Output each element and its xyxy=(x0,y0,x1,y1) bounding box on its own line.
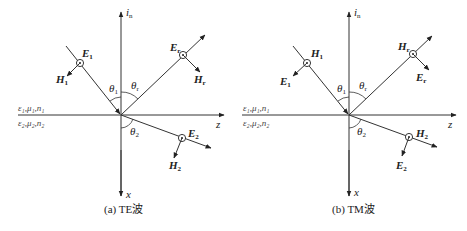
theta2-label-a: θ2 xyxy=(130,126,139,139)
er-label-b: Er xyxy=(416,72,426,85)
h2-label-b: H2 xyxy=(416,128,428,141)
e2-label-a: E2 xyxy=(188,128,199,141)
e1-label-b: E1 xyxy=(280,76,291,89)
angle-arc-thetar-a xyxy=(121,92,138,99)
hr-label-b: Hr xyxy=(398,41,410,54)
normal-axis-label-a: in xyxy=(126,7,133,20)
medium1-label-a: ε₁,μ₁,n₁ xyxy=(18,104,44,113)
hr-label-a: Hr xyxy=(194,74,206,87)
theta1-label-b: θ1 xyxy=(337,83,346,96)
e1-arrow-b xyxy=(293,63,307,76)
reflected-ray-a xyxy=(121,35,205,115)
theta2-label-b: θ2 xyxy=(357,126,366,139)
er-arrow-b xyxy=(413,54,429,70)
theta1-label-a: θ1 xyxy=(109,83,118,96)
figure-b-tm-wave xyxy=(242,12,456,196)
thetar-label-b: θr xyxy=(359,80,367,93)
h1-label-a: H1 xyxy=(56,74,68,87)
h2-label-a: H2 xyxy=(169,160,181,173)
z-axis-label-b: z xyxy=(448,119,452,130)
er-label-a: Er xyxy=(170,42,180,55)
normal-axis-label-b: in xyxy=(354,7,361,20)
x-axis-label-b: x xyxy=(354,187,359,198)
medium2-label-a: ε₂,μ₂,n₂ xyxy=(18,119,44,128)
figure-a-te-wave xyxy=(18,12,224,196)
thetar-label-a: θr xyxy=(131,80,139,93)
e1-label-a: E1 xyxy=(82,48,93,61)
e2-label-b: E2 xyxy=(396,160,407,173)
medium1-label-b: ε₁,μ₁,n₁ xyxy=(243,104,269,113)
h1-label-b: H1 xyxy=(311,48,323,61)
x-axis-label-a: x xyxy=(126,189,131,200)
medium2-label-b: ε₂,μ₂,n₂ xyxy=(243,119,269,128)
caption-b: (b) TM波 xyxy=(332,204,375,215)
h2-arrow-a xyxy=(174,138,182,158)
hr-arrow-a xyxy=(183,55,200,72)
diagram-canvas xyxy=(0,0,467,231)
angle-arc-thetar-b xyxy=(349,92,366,99)
angle-arc-theta1-a xyxy=(110,97,121,101)
h1-arrow-a xyxy=(67,63,80,76)
e2-arrow-b xyxy=(402,137,409,156)
angle-arc-theta1-b xyxy=(338,97,349,101)
z-axis-label-a: z xyxy=(216,119,220,130)
caption-a: (a) TE波 xyxy=(104,204,143,215)
incident-ray-a xyxy=(66,46,120,114)
